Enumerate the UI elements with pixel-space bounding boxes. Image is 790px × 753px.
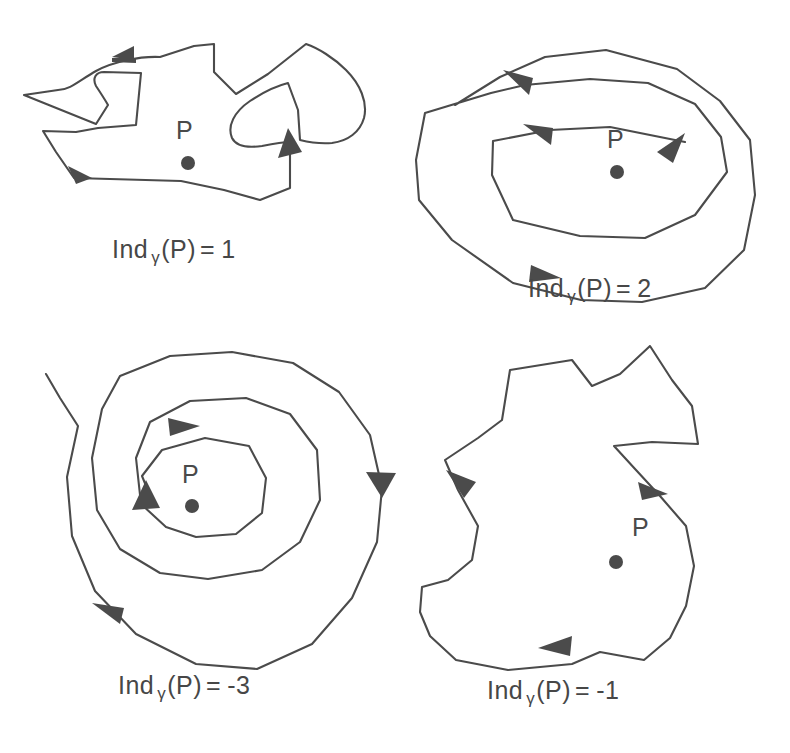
point-dot-p (609, 555, 623, 569)
direction-arrow-inner (132, 480, 160, 510)
direction-arrow-outer-bottom (92, 603, 124, 624)
caption-equals: = (196, 235, 219, 263)
caption-prefix: Ind (118, 671, 154, 699)
caption-argument: (P) (161, 235, 196, 263)
point-label-p: P (607, 125, 624, 153)
caption-subscript-gamma: γ (564, 287, 577, 306)
point-label-p: P (182, 460, 199, 488)
point-dot-p (181, 156, 195, 170)
caption-argument: (P) (167, 671, 202, 699)
caption-subscript-gamma: γ (148, 248, 161, 267)
curve-index-2 (416, 50, 755, 302)
caption-value: 1 (219, 235, 235, 263)
caption-equals: = (202, 671, 225, 699)
direction-arrow-right-upper (638, 482, 668, 500)
winding-number-figure: P P P (0, 0, 790, 753)
caption-argument: (P) (536, 676, 571, 704)
point-dot-p (185, 499, 199, 513)
caption-prefix: Ind (528, 274, 564, 302)
caption-argument: (P) (577, 274, 612, 302)
point-dot-p (610, 165, 624, 179)
direction-arrow-outer-top (503, 70, 533, 95)
caption-subscript-gamma: γ (154, 684, 167, 703)
caption-prefix: Ind (487, 676, 523, 704)
point-label-p: P (176, 116, 193, 144)
direction-arrow-bottom (538, 636, 572, 656)
caption-index-1: Indγ(P)=1 (112, 237, 236, 266)
direction-arrow-top (112, 46, 134, 60)
caption-equals: = (612, 274, 635, 302)
caption-value: -1 (594, 676, 619, 704)
curve-index-minus-1 (420, 346, 698, 670)
caption-subscript-gamma: γ (523, 689, 536, 708)
direction-arrow-middle-top (168, 418, 200, 436)
direction-arrow-outer-right (366, 472, 396, 498)
caption-value: -3 (225, 671, 250, 699)
point-label-p: P (632, 513, 649, 541)
caption-equals: = (571, 676, 594, 704)
caption-index-minus-1: Indγ(P)=-1 (487, 678, 619, 707)
caption-index-2: Indγ(P)=2 (528, 276, 652, 305)
caption-index-minus-3: Indγ(P)=-3 (118, 673, 250, 702)
caption-prefix: Ind (112, 235, 148, 263)
caption-value: 2 (635, 274, 651, 302)
curve-index-minus-3 (46, 352, 382, 669)
diagram-panel-index-2: P (395, 0, 790, 320)
